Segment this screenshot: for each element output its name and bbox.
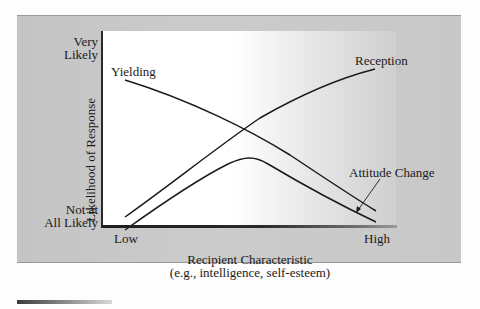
attitude-change-curve	[125, 158, 376, 230]
x-axis-line	[101, 225, 397, 228]
yielding-curve	[125, 80, 376, 211]
attitude-change-arrow	[358, 179, 380, 210]
label-reception: Reception	[355, 54, 408, 67]
y-tick-likely: Likely	[64, 48, 98, 61]
y-axis-title: Likelihood of Response	[83, 98, 99, 222]
x-tick-low: Low	[114, 232, 138, 245]
y-axis-line	[101, 31, 103, 228]
label-yielding: Yielding	[111, 65, 156, 78]
x-axis-subtitle: (e.g., intelligence, self-esteem)	[150, 266, 350, 279]
x-tick-high: High	[364, 232, 390, 245]
decorative-gradient-bar	[17, 300, 112, 304]
label-attitude-change: Attitude Change	[349, 166, 435, 179]
reception-curve	[125, 69, 375, 217]
